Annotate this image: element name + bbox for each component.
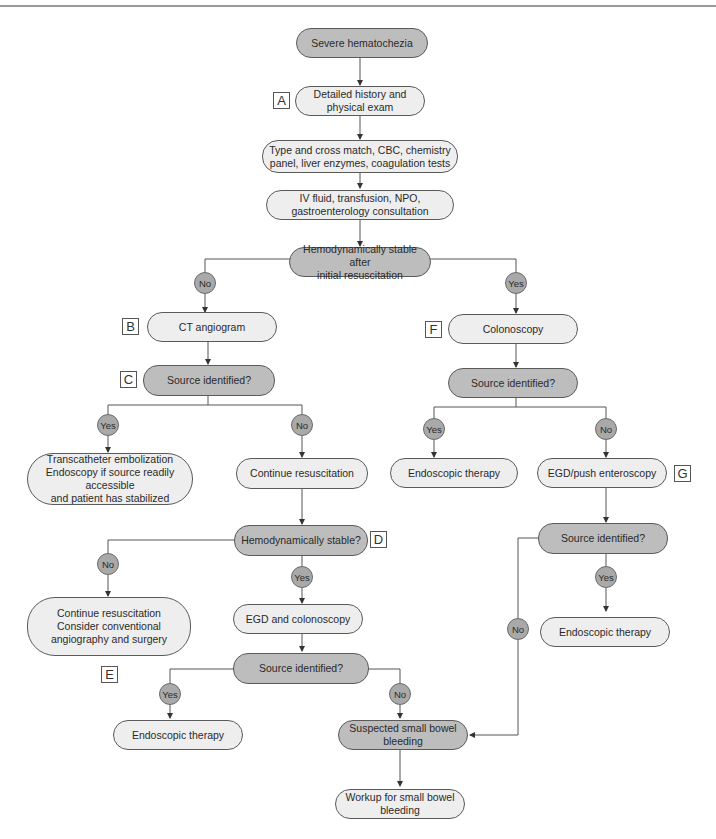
node-egd-colonoscopy: EGD and colonoscopy <box>233 604 363 634</box>
node-ct-angiogram: CT angiogram <box>147 312 277 342</box>
badge-yes-egd: Yes <box>159 683 181 705</box>
badge-no-ct: No <box>291 414 313 436</box>
node-endoscopic-therapy-mid: Endoscopic therapy <box>390 458 518 488</box>
node-resus-surgery: Continue resuscitation Consider conventi… <box>27 597 191 656</box>
node-severe-hematochezia: Severe hematochezia <box>296 28 428 58</box>
marker-f: F <box>425 321 442 338</box>
badge-no-stable: No <box>97 553 119 575</box>
node-labs: Type and cross match, CBC, chemistry pan… <box>262 140 458 173</box>
node-egd-source: Source identified? <box>233 653 369 684</box>
node-embolization: Transcatheter embolization Endoscopy if … <box>27 453 193 505</box>
node-small-bowel-workup: Workup for small bowel bleeding <box>335 789 465 819</box>
node-endoscopic-therapy-right: Endoscopic therapy <box>540 617 670 647</box>
node-colonoscopy: Colonoscopy <box>448 314 578 344</box>
badge-yes-initial: Yes <box>505 272 527 294</box>
marker-a: A <box>273 92 290 109</box>
marker-c: C <box>120 371 137 388</box>
node-push-enteroscopy: EGD/push enteroscopy <box>537 458 667 488</box>
node-iv-fluid: IV fluid, transfusion, NPO, gastroentero… <box>266 190 454 220</box>
badge-yes-colon: Yes <box>423 418 445 440</box>
node-stable-question: Hemodynamically stable? <box>234 525 368 556</box>
badge-yes-push: Yes <box>595 566 617 588</box>
node-push-source: Source identified? <box>538 523 668 554</box>
badge-no-push: No <box>507 618 529 640</box>
marker-b: B <box>122 318 139 335</box>
badge-no-initial: No <box>194 272 216 294</box>
badge-no-egd: No <box>389 683 411 705</box>
node-ct-source: Source identified? <box>143 365 275 396</box>
badge-yes-stable: Yes <box>291 566 313 588</box>
badge-yes-ct: Yes <box>97 414 119 436</box>
marker-d: D <box>370 531 387 548</box>
node-continue-resuscitation: Continue resuscitation <box>236 458 368 489</box>
marker-e: E <box>101 666 118 683</box>
marker-g: G <box>674 465 691 482</box>
node-colon-source: Source identified? <box>448 368 578 398</box>
badge-no-colon: No <box>595 418 617 440</box>
node-suspected-small-bowel: Suspected small bowel bleeding <box>338 720 468 750</box>
node-endoscopic-therapy-left: Endoscopic therapy <box>113 720 243 750</box>
node-stable-initial: Hemodynamically stable after initial res… <box>289 247 431 277</box>
node-history-exam: Detailed history and physical exam <box>295 86 425 116</box>
